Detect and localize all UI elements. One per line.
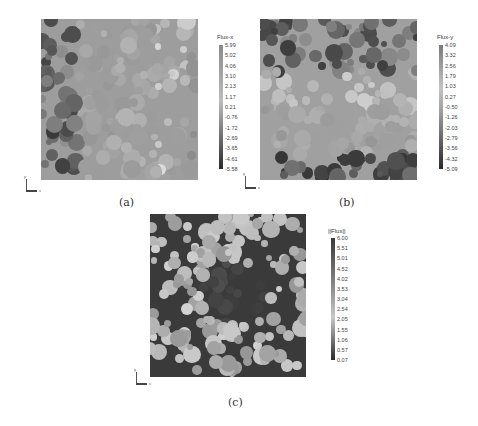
- grain: [299, 311, 306, 326]
- grain: [239, 322, 246, 329]
- grain: [44, 19, 58, 27]
- grain: [209, 355, 223, 369]
- grain: [151, 134, 157, 140]
- caption-b: (b): [339, 196, 355, 209]
- grain: [164, 320, 171, 327]
- grain: [78, 159, 94, 175]
- grain: [277, 105, 289, 117]
- grain: [180, 75, 190, 85]
- grain: [202, 252, 217, 267]
- grain: [299, 33, 311, 45]
- flux-y-colorbar: [439, 45, 443, 169]
- grain: [96, 150, 110, 164]
- colorbar-tick-label: 5.01: [337, 255, 348, 261]
- grain: [354, 83, 363, 92]
- grain: [55, 158, 70, 173]
- grain: [231, 263, 244, 276]
- grain: [281, 255, 290, 264]
- colorbar-tick-label: -4.32: [445, 156, 458, 162]
- grain: [296, 261, 306, 274]
- grain: [402, 167, 417, 180]
- grain: [309, 50, 321, 62]
- grain: [276, 130, 287, 141]
- grain: [41, 95, 46, 103]
- axes-triad-icon: yx: [24, 179, 38, 193]
- grain: [289, 246, 298, 255]
- grain: [358, 68, 365, 75]
- colorbar-tick-label: -4.61: [225, 156, 238, 162]
- grain: [320, 113, 335, 128]
- grain: [129, 98, 138, 107]
- grain: [47, 45, 57, 55]
- colorbar-tick-label: -5.58: [225, 166, 238, 172]
- colorbar-tick-label: 6.00: [337, 235, 348, 241]
- grain: [180, 46, 187, 53]
- grain: [397, 48, 410, 61]
- grain: [413, 111, 417, 119]
- grain: [366, 47, 382, 63]
- grain: [276, 286, 283, 293]
- grain: [368, 82, 374, 88]
- colorbar-tick-label: -0.50: [445, 104, 458, 110]
- grain: [413, 34, 417, 41]
- grain: [255, 280, 266, 291]
- colorbar-tick-label: 5.99: [225, 42, 236, 48]
- grain: [163, 73, 170, 80]
- grain: [117, 108, 134, 125]
- flux-x-colorbar-title: Flux-x: [217, 34, 233, 40]
- grain: [45, 68, 52, 75]
- colorbar-tick-label: 1.06: [337, 337, 348, 343]
- colorbar-tick-label: 1.03: [445, 83, 456, 89]
- grain: [149, 150, 156, 157]
- axes-triad-icon: yx: [134, 372, 148, 386]
- grain: [181, 160, 198, 178]
- grain: [406, 153, 417, 167]
- grain: [364, 19, 379, 30]
- grain: [190, 131, 197, 138]
- colorbar-tick-label: 3.10: [225, 73, 236, 79]
- colorbar-tick-label: -2.03: [445, 125, 458, 131]
- colorbar-tick-label: 0.21: [225, 104, 236, 110]
- grain: [292, 19, 308, 32]
- grain: [85, 174, 92, 180]
- grain: [380, 133, 394, 147]
- colorbar-tick-label: 4.02: [337, 276, 348, 282]
- colorbar-tick-label: 3.53: [337, 286, 348, 292]
- grain: [272, 67, 281, 76]
- colorbar-tick-label: 1.55: [337, 327, 348, 333]
- grain: [162, 78, 177, 93]
- grain: [254, 332, 266, 344]
- grain: [41, 75, 53, 87]
- grain: [365, 153, 376, 164]
- grain: [66, 115, 83, 132]
- grain: [349, 32, 366, 49]
- grain: [183, 222, 192, 231]
- grain: [146, 111, 157, 122]
- grain: [187, 151, 197, 161]
- grain: [240, 346, 253, 359]
- grain: [346, 24, 352, 30]
- grain: [329, 168, 346, 180]
- grain: [75, 72, 84, 81]
- colorbar-tick-label: 4.52: [337, 266, 348, 272]
- grain: [168, 216, 182, 230]
- grain: [41, 160, 49, 168]
- grain: [377, 171, 383, 177]
- grain: [262, 221, 279, 238]
- grain: [164, 118, 172, 126]
- grain: [252, 302, 264, 314]
- grain: [255, 317, 264, 326]
- colorbar-tick-label: 5.02: [225, 52, 236, 58]
- grain: [302, 96, 311, 105]
- grain: [381, 41, 387, 47]
- grain: [168, 128, 185, 145]
- grain: [243, 258, 253, 268]
- caption-a: (a): [119, 196, 134, 209]
- grain: [223, 222, 236, 235]
- colorbar-tick-label: 0.57: [337, 347, 348, 353]
- grain: [223, 323, 239, 339]
- grain: [140, 28, 153, 41]
- grain: [262, 70, 270, 78]
- colorbar-tick-label: -0.76: [225, 114, 238, 120]
- grain: [261, 106, 269, 114]
